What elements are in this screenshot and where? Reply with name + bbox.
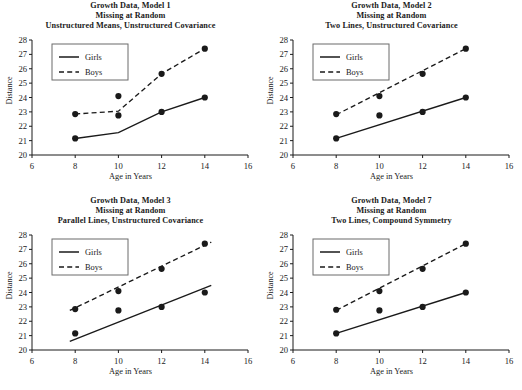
legend-label-girls: Girls [346, 248, 363, 257]
x-tick-label: 14 [462, 356, 471, 366]
legend-label-girls: Girls [85, 53, 102, 62]
chart-panel-model-7: Growth Data, Model 7 Missing at Random T… [261, 195, 522, 390]
data-point-girls [72, 135, 78, 141]
x-tick-label: 8 [73, 356, 77, 366]
data-point-girls [333, 330, 339, 336]
data-point-girls [72, 330, 78, 336]
data-point-boys [159, 266, 165, 272]
x-axis-label: Age in Years [0, 172, 261, 181]
x-tick-label: 10 [114, 356, 123, 366]
plot-area: 2021222324252627286810121416GirlsBoys Di… [261, 195, 522, 390]
plot-area: 2021222324252627286810121416GirlsBoys Di… [0, 195, 261, 390]
chart-svg: 2021222324252627286810121416GirlsBoys [261, 0, 522, 195]
y-tick-label: 25 [18, 78, 27, 88]
x-tick-label: 14 [201, 356, 210, 366]
series-line-girls [75, 98, 205, 139]
data-point-girls [376, 307, 382, 313]
y-tick-label: 25 [279, 78, 288, 88]
x-tick-label: 16 [505, 161, 514, 171]
data-point-girls [420, 304, 426, 310]
y-tick-label: 24 [279, 93, 288, 103]
x-tick-label: 6 [30, 356, 35, 366]
x-axis-label: Age in Years [261, 367, 522, 376]
legend-label-boys: Boys [346, 68, 363, 77]
legend-label-girls: Girls [346, 53, 363, 62]
plot-area: 2021222324252627286810121416GirlsBoys Di… [0, 0, 261, 195]
data-point-boys [72, 111, 78, 117]
data-point-boys [420, 71, 426, 77]
x-tick-label: 10 [114, 161, 123, 171]
x-axis-label: Age in Years [261, 172, 522, 181]
legend-label-girls: Girls [85, 248, 102, 257]
y-axis-label: Distance [266, 56, 275, 126]
y-tick-label: 27 [279, 49, 288, 59]
x-tick-label: 14 [462, 161, 471, 171]
x-tick-label: 8 [334, 356, 338, 366]
data-point-boys [420, 266, 426, 272]
data-point-boys [115, 93, 121, 99]
y-tick-label: 26 [18, 64, 27, 74]
chart-panel-model-2: Growth Data, Model 2 Missing at Random T… [261, 0, 522, 195]
y-tick-label: 22 [279, 316, 288, 326]
y-tick-label: 20 [279, 345, 288, 355]
y-tick-label: 23 [18, 302, 27, 312]
data-point-girls [159, 304, 165, 310]
y-tick-label: 26 [18, 259, 27, 269]
x-tick-label: 16 [244, 356, 253, 366]
legend-label-boys: Boys [85, 68, 102, 77]
data-point-boys [115, 288, 121, 294]
y-tick-label: 20 [18, 345, 27, 355]
y-tick-label: 28 [279, 35, 288, 45]
x-tick-label: 12 [157, 356, 166, 366]
y-tick-label: 24 [18, 288, 27, 298]
chart-panel-model-1: Growth Data, Model 1 Missing at Random U… [0, 0, 261, 195]
x-tick-label: 10 [375, 356, 384, 366]
plot-area: 2021222324252627286810121416GirlsBoys Di… [261, 0, 522, 195]
y-tick-label: 28 [279, 230, 288, 240]
legend-label-boys: Boys [346, 263, 363, 272]
data-point-girls [463, 289, 469, 295]
y-axis-label: Distance [5, 56, 14, 126]
figure-grid: Growth Data, Model 1 Missing at Random U… [0, 0, 522, 390]
y-tick-label: 27 [18, 244, 27, 254]
y-tick-label: 20 [18, 150, 27, 160]
y-tick-label: 22 [18, 121, 27, 131]
y-tick-label: 25 [279, 273, 288, 283]
data-point-girls [159, 109, 165, 115]
legend-label-boys: Boys [85, 263, 102, 272]
chart-svg: 2021222324252627286810121416GirlsBoys [0, 195, 261, 390]
y-axis-label: Distance [266, 251, 275, 321]
chart-panel-model-3: Growth Data, Model 3 Missing at Random P… [0, 195, 261, 390]
data-point-girls [333, 135, 339, 141]
chart-svg: 2021222324252627286810121416GirlsBoys [0, 0, 261, 195]
x-tick-label: 6 [291, 161, 296, 171]
data-point-boys [202, 46, 208, 52]
y-tick-label: 23 [279, 302, 288, 312]
x-tick-label: 12 [418, 356, 427, 366]
x-tick-label: 14 [201, 161, 210, 171]
y-tick-label: 27 [279, 244, 288, 254]
data-point-boys [333, 111, 339, 117]
data-point-girls [202, 94, 208, 100]
x-tick-label: 8 [334, 161, 338, 171]
y-tick-label: 26 [279, 64, 288, 74]
x-tick-label: 16 [505, 356, 514, 366]
y-tick-label: 21 [279, 331, 288, 341]
data-point-boys [159, 71, 165, 77]
y-tick-label: 21 [18, 136, 27, 146]
x-tick-label: 6 [291, 356, 296, 366]
data-point-boys [202, 241, 208, 247]
y-tick-label: 27 [18, 49, 27, 59]
x-tick-label: 8 [73, 161, 77, 171]
y-tick-label: 25 [18, 273, 27, 283]
y-tick-label: 21 [18, 331, 27, 341]
y-tick-label: 22 [279, 121, 288, 131]
series-line-girls [336, 98, 466, 139]
y-tick-label: 26 [279, 259, 288, 269]
chart-svg: 2021222324252627286810121416GirlsBoys [261, 195, 522, 390]
x-tick-label: 16 [244, 161, 253, 171]
series-line-girls [70, 285, 211, 341]
data-point-boys [463, 241, 469, 247]
x-tick-label: 10 [375, 161, 384, 171]
data-point-boys [333, 307, 339, 313]
